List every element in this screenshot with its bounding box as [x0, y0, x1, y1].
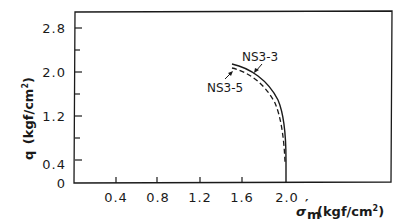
y-tick-label: 0.4: [42, 157, 66, 172]
annotation-ns3-3: NS3-3: [242, 50, 278, 64]
y-tick-label: 2.8: [42, 21, 66, 36]
y-axis-ticks: [75, 28, 82, 160]
annotation-ns3-5: NS3-5: [207, 81, 243, 95]
x-tick-label: 0.8: [146, 190, 170, 205]
y-axis-label: q (kgf/cm2): [21, 77, 36, 160]
chart: 2.8 2.0 1.2 0.4 0 0.4 0.8 1.2 1.6 2.0 q …: [0, 0, 417, 223]
y-tick-label: 2.0: [42, 65, 66, 80]
x-axis-label: σ ′ m (kgf/cm2): [296, 196, 384, 222]
plot-frame: [74, 11, 392, 183]
x-tick-label: 1.2: [188, 190, 212, 205]
x-tick-label: 2.0: [275, 190, 299, 205]
x-tick-label: 0.4: [104, 190, 128, 205]
svg-text:(kgf/cm2): (kgf/cm2): [317, 204, 384, 219]
y-tick-label: 0: [57, 176, 66, 191]
y-tick-label: 1.2: [42, 109, 66, 124]
x-tick-label: 1.6: [230, 190, 254, 205]
svg-text:q (kgf/cm2): q (kgf/cm2): [21, 77, 36, 160]
